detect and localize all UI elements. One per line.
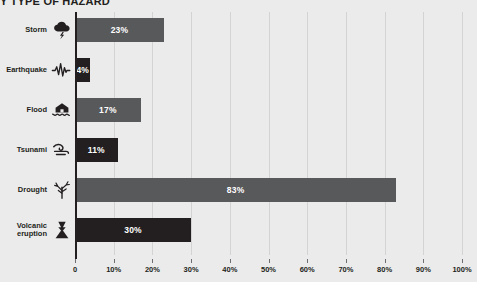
x-tick-label: 0: [73, 265, 77, 274]
category-name: Drought: [18, 186, 47, 194]
bar-value-label: 11%: [88, 145, 105, 155]
bar-row[interactable]: 4%: [75, 58, 90, 82]
x-tick-label: 50%: [261, 265, 276, 274]
x-tick: [462, 259, 463, 263]
chart-title: Y TYPE OF HAZARD: [0, 0, 110, 7]
category-name: Volcanic eruption: [17, 222, 47, 238]
category-label-tsunami: Tsunami: [0, 138, 73, 162]
bar-value-label: 23%: [111, 25, 129, 35]
category-name: Storm: [25, 26, 47, 34]
x-tick-label: 20%: [145, 265, 160, 274]
bar-row[interactable]: 83%: [75, 178, 396, 202]
earthquake-icon: [51, 59, 73, 81]
x-tick: [191, 259, 192, 263]
bar-chart: Y TYPE OF HAZARD 23%4%17%11%83%30% Storm…: [0, 0, 477, 282]
category-label-drought: Drought: [0, 178, 73, 202]
x-tick: [385, 259, 386, 263]
flood-icon: [51, 99, 73, 121]
category-label-earthquake: Earthquake: [0, 58, 73, 82]
x-tick: [346, 259, 347, 263]
x-tick-label: 30%: [184, 265, 199, 274]
bar[interactable]: 17%: [75, 98, 141, 122]
bar-value-label: 17%: [99, 105, 117, 115]
storm-icon: [51, 19, 73, 41]
x-tick: [152, 259, 153, 263]
x-axis: 010%20%30%40%50%60%70%80%90%100%: [75, 259, 462, 281]
category-name: Earthquake: [6, 66, 47, 74]
plot-area: 23%4%17%11%83%30%: [75, 12, 462, 255]
bar-row[interactable]: 11%: [75, 138, 118, 162]
y-axis-line: [75, 12, 77, 259]
bar[interactable]: 23%: [75, 18, 164, 42]
category-label-storm: Storm: [0, 18, 73, 42]
volcano-icon: [51, 219, 73, 241]
bar[interactable]: 83%: [75, 178, 396, 202]
bar[interactable]: 30%: [75, 218, 191, 242]
gridline: [462, 12, 463, 255]
bar-row[interactable]: 17%: [75, 98, 141, 122]
category-name: Tsunami: [17, 146, 47, 154]
category-labels: StormEarthquakeFloodTsunamiDroughtVolcan…: [0, 12, 75, 255]
x-tick: [423, 259, 424, 263]
bar-value-label: 83%: [227, 185, 245, 195]
bar-series: 23%4%17%11%83%30%: [75, 12, 462, 255]
x-tick: [269, 259, 270, 263]
tsunami-icon: [51, 139, 73, 161]
category-name: Flood: [27, 106, 47, 114]
x-tick: [307, 259, 308, 263]
x-tick-label: 70%: [338, 265, 353, 274]
bar-row[interactable]: 30%: [75, 218, 191, 242]
bar[interactable]: 11%: [75, 138, 118, 162]
x-tick: [114, 259, 115, 263]
x-tick: [230, 259, 231, 263]
drought-icon: [51, 179, 73, 201]
x-tick-label: 60%: [300, 265, 315, 274]
x-tick-label: 80%: [377, 265, 392, 274]
x-tick-label: 100%: [452, 265, 471, 274]
bar-value-label: 4%: [76, 65, 89, 75]
category-label-flood: Flood: [0, 98, 73, 122]
bar[interactable]: 4%: [75, 58, 90, 82]
x-tick-label: 90%: [416, 265, 431, 274]
x-tick: [75, 259, 76, 263]
category-label-volcanic-eruption: Volcanic eruption: [0, 218, 73, 242]
bar-row[interactable]: 23%: [75, 18, 164, 42]
bar-value-label: 30%: [124, 225, 142, 235]
x-tick-label: 40%: [222, 265, 237, 274]
x-tick-label: 10%: [106, 265, 121, 274]
